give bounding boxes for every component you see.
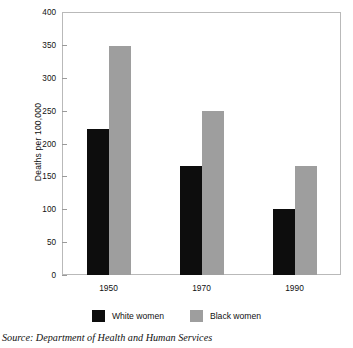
- y-tick-label-250: 250: [28, 106, 56, 115]
- legend-item-white-women: White women: [92, 310, 164, 322]
- y-tick-label-100: 100: [28, 205, 56, 214]
- y-tick-mark-300: [62, 78, 67, 79]
- bars-layer: [62, 12, 341, 275]
- y-tick-mark-150: [62, 176, 67, 177]
- y-tick-label-50: 50: [28, 238, 56, 247]
- legend-swatch-icon: [92, 310, 105, 322]
- legend-label: White women: [112, 311, 164, 321]
- x-tick-label-1970: 1970: [172, 283, 232, 293]
- x-tick-label-1990: 1990: [265, 283, 325, 293]
- bar-1970-white-women: [180, 166, 202, 275]
- y-tick-mark-50: [62, 242, 67, 243]
- chart-figure: Deaths per 100,000 050100150200250300350…: [0, 0, 353, 348]
- chart-legend: White womenBlack women: [0, 310, 353, 322]
- bar-1950-black-women: [109, 46, 131, 275]
- y-axis-tick-labels: 050100150200250300350400: [26, 0, 56, 348]
- y-tick-label-350: 350: [28, 40, 56, 49]
- source-note: Source: Department of Health and Human S…: [2, 332, 212, 343]
- y-tick-label-0: 0: [28, 271, 56, 280]
- y-tick-mark-100: [62, 209, 67, 210]
- bar-1990-black-women: [295, 166, 317, 275]
- bar-1990-white-women: [273, 209, 295, 275]
- y-tick-mark-0: [62, 275, 67, 276]
- y-tick-mark-350: [62, 45, 67, 46]
- y-tick-mark-250: [62, 111, 67, 112]
- bar-1950-white-women: [87, 129, 109, 275]
- y-tick-label-200: 200: [28, 139, 56, 148]
- y-tick-mark-200: [62, 144, 67, 145]
- legend-swatch-icon: [190, 310, 203, 322]
- y-tick-label-400: 400: [28, 8, 56, 17]
- legend-item-black-women: Black women: [190, 310, 261, 322]
- legend-label: Black women: [210, 311, 261, 321]
- y-tick-label-300: 300: [28, 73, 56, 82]
- bar-1970-black-women: [202, 111, 224, 275]
- y-tick-label-150: 150: [28, 172, 56, 181]
- x-tick-label-1950: 1950: [79, 283, 139, 293]
